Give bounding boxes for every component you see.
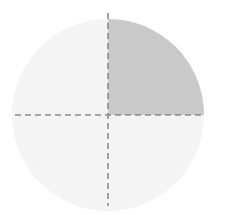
figure-container [0, 0, 231, 215]
quarter-circle-diagram [0, 0, 231, 215]
